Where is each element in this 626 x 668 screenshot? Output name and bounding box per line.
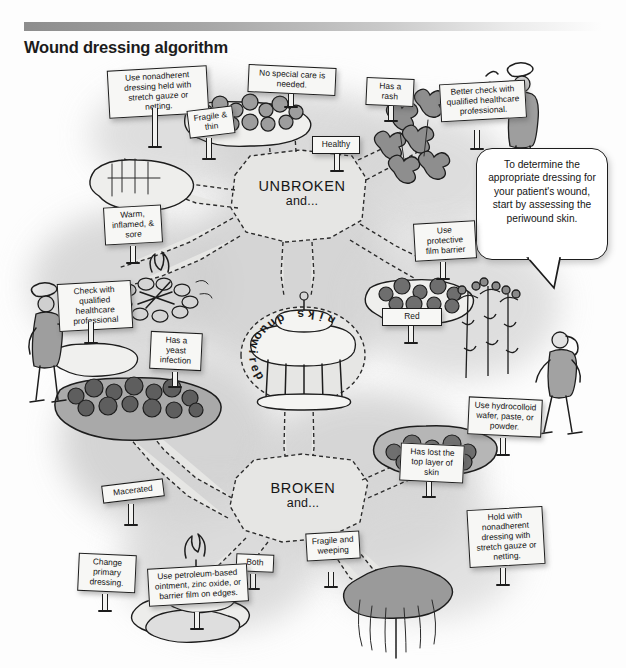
hub-broken-label: BROKEN (248, 480, 358, 496)
sign-post (194, 612, 200, 630)
header-gradient-bar (24, 22, 602, 31)
sign-text: Better check with qualified healthcare p… (446, 83, 519, 116)
sign-post (426, 482, 432, 498)
sign-text: Macerated (113, 483, 154, 498)
weeping-willow (344, 566, 453, 658)
sign-red: Red (382, 308, 442, 326)
sign-has-lost-the-top-layer-of-skin: Has lost the top layer of skin (399, 443, 465, 484)
page-title: Wound dressing algorithm (24, 38, 228, 57)
sign-fragile-and-thin: Fragile & thin (186, 105, 235, 138)
sign-has-a-rash: Has a rash (365, 77, 414, 107)
sign-post (206, 138, 212, 160)
sign-text: Has lost the top layer of skin (410, 446, 455, 477)
sign-fragile-and-weeping: Fragile and weeping (305, 531, 360, 562)
trellis-vines (458, 278, 520, 378)
sign-text: Healthy (322, 139, 350, 149)
instruction-speech-bubble: To determine the appropriate dressing fo… (476, 148, 608, 260)
periwound-label-char (287, 309, 294, 323)
sign-post (152, 108, 158, 148)
sign-post (440, 262, 446, 280)
hub-broken-sublabel: and... (248, 496, 358, 510)
sign-post (88, 322, 94, 344)
sign-post (334, 154, 340, 172)
sign-post (128, 504, 134, 526)
sign-has-a-yeast-infection: Has a yeast infection (149, 331, 203, 371)
sign-use-petroleum-based-ointment: Use petroleum-based ointment, zinc oxide… (147, 563, 249, 606)
hub-unbroken-label: UNBROKEN (242, 178, 362, 194)
sign-post (288, 94, 294, 108)
sign-post (328, 572, 334, 588)
sign-text: Use protective film barrier (425, 225, 465, 256)
hub-unbroken: UNBROKEN and... (242, 178, 362, 208)
sign-text: Fragile & thin (193, 109, 227, 132)
periwound-label-char: i (318, 309, 326, 323)
sign-use-protective-film-barrier: Use protective film barrier (413, 220, 477, 261)
speech-bubble-tail (520, 256, 580, 292)
periwound-label-char: s (297, 307, 305, 321)
sign-text: Change primary dressing. (89, 556, 123, 587)
sign-warm-inflamed-and-sore: Warm, inflamed, & sore (103, 204, 163, 245)
sign-text: Both (246, 557, 264, 568)
sign-use-hydrocolloid-wafer: Use hydrocolloid wafer, paste, or powder… (467, 396, 543, 437)
periwound-label-char: i (246, 350, 260, 354)
sign-post (130, 246, 136, 264)
sign-text: Fragile and weeping (311, 534, 353, 556)
sign-text: Check with qualified healthcare professi… (73, 284, 119, 326)
sign-post (172, 372, 178, 388)
sign-post (102, 594, 108, 612)
periwound-label-char: n (324, 312, 337, 328)
sign-post (474, 130, 480, 150)
sign-text: Hold with nonadherent dressing with stre… (476, 510, 537, 561)
periwound-skin-circular-label: periwound skin (243, 307, 367, 403)
sign-text: Has a yeast infection (160, 335, 192, 366)
sign-text: Warm, inflamed, & sore (112, 208, 154, 239)
periwound-label-char: k (307, 307, 315, 322)
figure-woman-right (536, 332, 582, 434)
sign-text: Use hydrocolloid wafer, paste, or powder… (474, 400, 536, 432)
sign-change-primary-dressing: Change primary dressing. (77, 553, 137, 593)
sign-check-with-qualified: Check with qualified healthcare professi… (57, 280, 134, 332)
sign-text: Use petroleum-based ointment, zinc oxide… (155, 567, 242, 601)
illustration-page: Wound dressing algorithm (0, 0, 626, 668)
sign-hold-with-nonadherent-dressing: Hold with nonadherent dressing with stre… (466, 506, 545, 568)
sign-post (250, 574, 256, 590)
yeast-bush (68, 377, 203, 418)
sign-post (388, 106, 394, 122)
sign-no-special-care: No special care is needed. (247, 64, 336, 96)
hub-broken: BROKEN and... (248, 480, 358, 510)
sign-post (408, 326, 414, 344)
algorithm-illustration: periwound skin UNBROKEN and... BROKEN an… (0, 60, 626, 668)
sign-text: Use nonadherent dressing held with stret… (124, 69, 192, 111)
sign-text: No special care is needed. (259, 68, 325, 90)
instruction-speech-bubble-text: To determine the appropriate dressing fo… (488, 159, 596, 224)
sign-text: Has a rash (379, 81, 401, 102)
sign-post (500, 568, 506, 586)
hub-unbroken-sublabel: and... (242, 194, 362, 208)
sign-text: Red (404, 311, 419, 321)
sign-post (500, 438, 506, 456)
sign-healthy: Healthy (312, 136, 360, 154)
sign-better-check-with-qualified: Better check with qualified healthcare p… (439, 80, 527, 122)
